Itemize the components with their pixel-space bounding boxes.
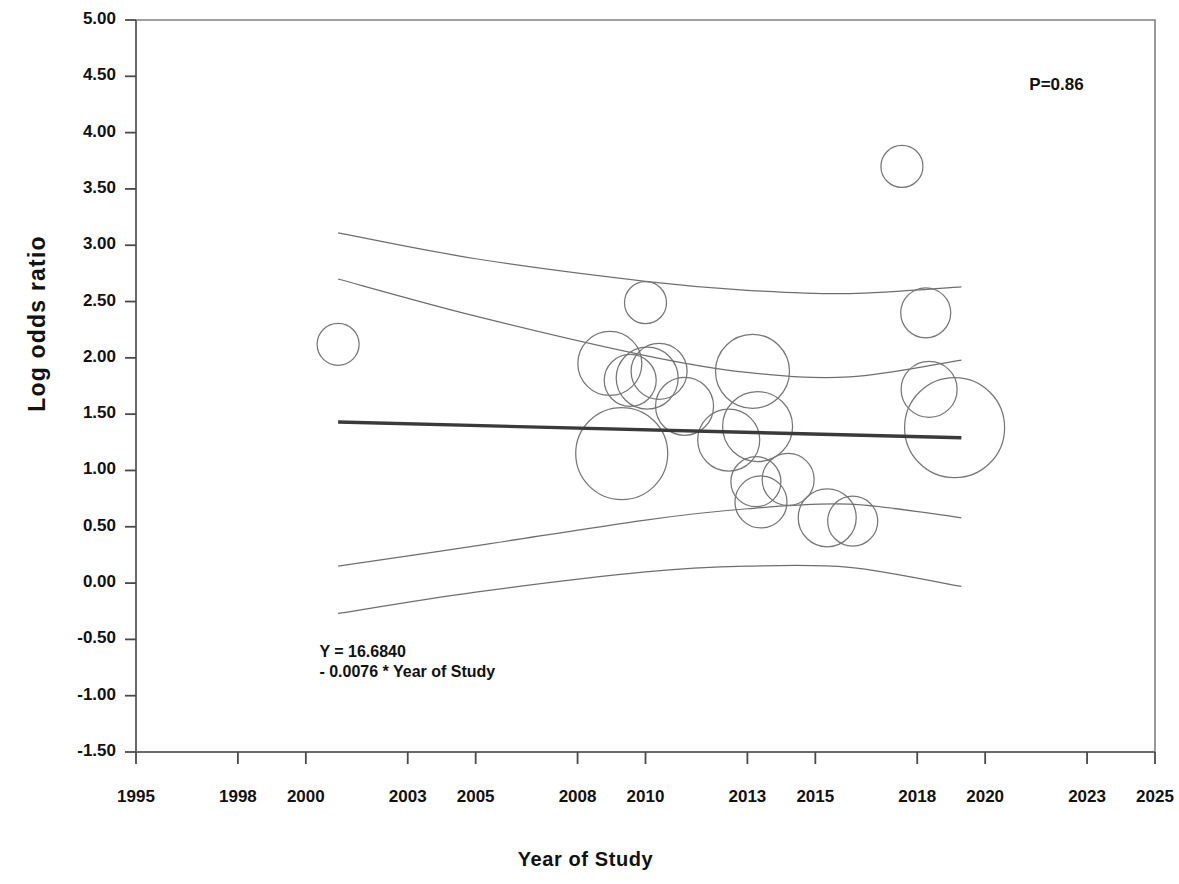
x-axis-tick-label: 2023	[1052, 787, 1122, 807]
x-axis-tick-label: 2005	[441, 787, 511, 807]
y-axis-tick-label: 3.50	[38, 178, 116, 198]
x-axis-tick-label: 2008	[543, 787, 613, 807]
y-axis-tick-label: -1.50	[38, 741, 116, 761]
x-axis-tick-label: 2000	[271, 787, 341, 807]
x-axis-tick-label: 2015	[780, 787, 850, 807]
confidence-curve-outer-lower	[338, 565, 961, 613]
study-bubble	[631, 343, 687, 399]
x-axis-title: Year of Study	[0, 848, 1171, 871]
x-axis-tick-label: 2025	[1120, 787, 1179, 807]
y-axis-tick-label: 1.50	[38, 403, 116, 423]
study-bubble	[317, 323, 359, 365]
study-bubble	[901, 288, 951, 338]
study-bubble	[798, 489, 856, 547]
y-axis-tick-label: 3.00	[38, 234, 116, 254]
x-axis-tick-label: 2010	[611, 787, 681, 807]
y-axis-tick-label: 2.50	[38, 291, 116, 311]
study-bubble	[731, 457, 781, 507]
bubble-series	[317, 145, 1004, 546]
y-axis-tick-label: 0.50	[38, 516, 116, 536]
study-bubble	[625, 282, 667, 324]
regression-line	[338, 422, 961, 438]
study-bubble	[576, 408, 668, 500]
study-bubble	[905, 378, 1005, 478]
study-bubble	[715, 334, 789, 408]
study-bubble	[656, 377, 714, 435]
x-axis-tick-label: 2020	[950, 787, 1020, 807]
plot-frame	[136, 20, 1155, 752]
annotation-p-value: P=0.86	[1029, 75, 1083, 95]
confidence-curve-outer-upper	[338, 233, 961, 294]
study-bubble	[698, 409, 760, 471]
y-axis-tick-label: 4.00	[38, 122, 116, 142]
y-axis-tick-label: 0.00	[38, 572, 116, 592]
annotation-regression-equation-line2: - 0.0076 * Year of Study	[319, 661, 495, 683]
study-bubble	[901, 361, 957, 417]
y-axis-tick-label: 1.00	[38, 459, 116, 479]
study-bubble	[604, 354, 656, 406]
x-axis-tick-label: 2018	[882, 787, 952, 807]
y-axis-tick-label: -0.50	[38, 628, 116, 648]
x-axis-tick-label: 1998	[203, 787, 273, 807]
confidence-curve-inner-lower	[338, 504, 961, 566]
study-bubble	[881, 145, 923, 187]
y-axis-tick-label: -1.00	[38, 685, 116, 705]
x-axis-tick-label: 1995	[101, 787, 171, 807]
x-axis-tick-label: 2013	[712, 787, 782, 807]
regression-line-layer	[338, 422, 961, 438]
y-axis-tick-label: 4.50	[38, 65, 116, 85]
study-bubble	[735, 476, 787, 528]
y-axis-tick-label: 2.00	[38, 347, 116, 367]
y-axis-tick-label: 5.00	[38, 9, 116, 29]
x-axis-tick-label: 2003	[373, 787, 443, 807]
annotation-regression-equation-line1: Y = 16.6840	[319, 641, 405, 663]
